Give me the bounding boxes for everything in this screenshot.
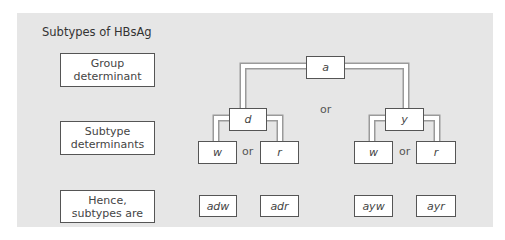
or-text-top: or: [320, 103, 331, 116]
or-text-right: or: [399, 145, 410, 158]
or-text-left: or: [242, 145, 253, 158]
subtype-ayw: ayw: [354, 195, 393, 217]
hence-subtypes-label: Hence, subtypes are: [60, 190, 155, 223]
node-y-w: w: [354, 141, 393, 164]
subtype-ayr: ayr: [416, 195, 456, 217]
node-d: d: [229, 108, 267, 131]
group-determinant-label: Group determinant: [60, 53, 155, 87]
subtype-adw: adw: [199, 195, 237, 217]
node-d-r: r: [260, 141, 299, 164]
subtype-determinants-label: Subtype determinants: [60, 121, 155, 155]
node-d-w: w: [198, 141, 237, 164]
node-a: a: [306, 56, 345, 79]
node-y: y: [385, 108, 424, 131]
node-y-r: r: [416, 141, 456, 164]
subtype-adr: adr: [260, 195, 299, 217]
